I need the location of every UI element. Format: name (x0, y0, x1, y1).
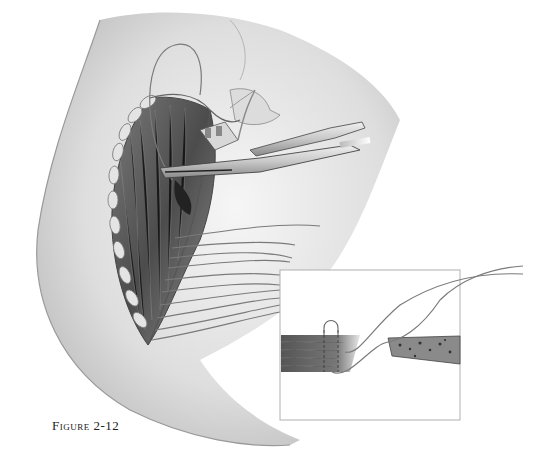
figure-page: Figure 2-12 (0, 0, 550, 457)
caption-label: Figure (52, 418, 90, 433)
caption-number: 2-12 (93, 418, 119, 433)
inset-diagram (280, 266, 523, 420)
surgical-illustration (0, 0, 550, 457)
figure-caption: Figure 2-12 (52, 418, 119, 434)
